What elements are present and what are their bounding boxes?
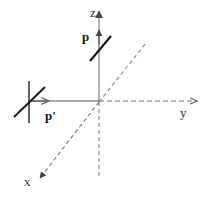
p-prime-label: p' xyxy=(45,108,56,123)
y-axis-label: y xyxy=(180,105,187,120)
p-label: p xyxy=(82,29,89,44)
x-axis-negative xyxy=(99,43,146,102)
p-slash xyxy=(90,36,111,61)
x-axis-label: x xyxy=(24,174,31,189)
coordinate-diagram: z y x p p' xyxy=(0,0,207,201)
z-axis-label: z xyxy=(90,5,96,20)
